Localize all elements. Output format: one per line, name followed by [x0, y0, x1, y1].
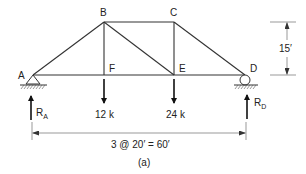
reaction-d: RD [247, 95, 266, 119]
member-AB [33, 22, 104, 75]
load-label-f: 12 k [95, 109, 115, 120]
roller-support-icon [234, 75, 258, 89]
node-label-f: F [109, 63, 115, 74]
span-dimension-label: 3 @ 20′ = 60′ [111, 139, 170, 150]
node-label-d: D [250, 63, 257, 74]
reaction-label-d: RD [254, 97, 266, 110]
truss-diagram: A B C D E F [0, 0, 306, 174]
height-dimension-label: 15′ [279, 43, 292, 54]
node-label-e: E [179, 63, 186, 74]
load-f: 12 k [95, 79, 115, 120]
node-label-c: C [170, 7, 177, 18]
height-dimension: 15′ [270, 22, 296, 75]
figure-caption: (a) [138, 157, 150, 168]
truss-members [33, 22, 245, 75]
span-dimension: 3 @ 20′ = 60′ [32, 122, 246, 150]
reaction-a: RA [31, 96, 48, 120]
reaction-label-a: RA [36, 107, 48, 120]
node-label-b: B [100, 7, 107, 18]
node-label-a: A [18, 70, 25, 81]
load-label-e: 24 k [166, 109, 186, 120]
load-e: 24 k [166, 79, 186, 120]
